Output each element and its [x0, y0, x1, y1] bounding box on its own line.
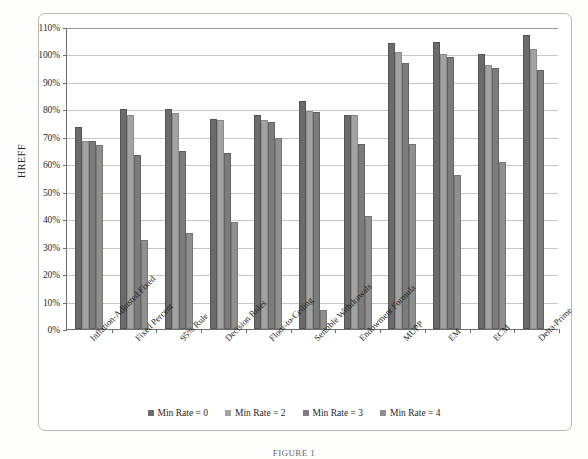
bar: [433, 42, 440, 329]
bar: [365, 216, 372, 329]
x-axis-tick-mark: [470, 329, 471, 333]
bar-group: [246, 28, 291, 329]
bar: [82, 141, 89, 329]
y-axis-tick-mark: [63, 330, 67, 331]
y-axis-tick-label: 60%: [0, 160, 66, 170]
bar: [492, 68, 499, 329]
bar: [172, 113, 179, 329]
bar: [395, 52, 402, 329]
bar: [478, 54, 485, 329]
bar: [409, 144, 416, 329]
bar-group: [380, 28, 425, 329]
bar: [210, 119, 217, 329]
legend-swatch: [303, 410, 309, 416]
bar: [523, 35, 530, 329]
legend-swatch: [148, 410, 154, 416]
legend-item: Min Rate = 3: [303, 408, 363, 418]
legend-item: Min Rate = 0: [148, 408, 208, 418]
bar: [89, 141, 96, 329]
bar-group: [201, 28, 246, 329]
bar-group: [470, 28, 515, 329]
y-axis-tick-label: 20%: [0, 270, 66, 280]
bar-group: [67, 28, 112, 329]
legend-label: Min Rate = 4: [390, 408, 440, 418]
y-axis-tick-label: 40%: [0, 215, 66, 225]
figure-container: HREFF 0%10%20%30%40%50%60%70%80%90%100%1…: [0, 0, 588, 459]
bar: [186, 233, 193, 329]
y-axis-tick-label: 100%: [0, 50, 66, 60]
bar: [224, 153, 231, 329]
bar-group: [514, 28, 559, 329]
figure-caption: FIGURE 1: [0, 448, 588, 459]
bar-group: [156, 28, 201, 329]
legend-label: Min Rate = 0: [158, 408, 208, 418]
x-axis-tick-mark: [425, 329, 426, 333]
y-axis-tick-label: 30%: [0, 243, 66, 253]
bar: [275, 138, 282, 329]
legend-swatch: [225, 410, 231, 416]
y-axis-tick-label: 110%: [0, 23, 66, 33]
bar: [165, 109, 172, 329]
x-axis-tick-mark: [514, 329, 515, 333]
bar-group: [425, 28, 470, 329]
y-axis-tick-label: 0%: [0, 325, 66, 335]
legend-item: Min Rate = 4: [380, 408, 440, 418]
bar: [537, 70, 544, 329]
x-axis-tick-mark: [246, 329, 247, 333]
chart-legend: Min Rate = 0Min Rate = 2Min Rate = 3Min …: [0, 408, 588, 418]
bar-group: [335, 28, 380, 329]
bar: [75, 127, 82, 329]
legend-label: Min Rate = 3: [313, 408, 363, 418]
legend-item: Min Rate = 2: [225, 408, 285, 418]
bar-group: [291, 28, 336, 329]
bar: [179, 151, 186, 329]
bar: [96, 145, 103, 329]
legend-swatch: [380, 410, 386, 416]
bar: [440, 54, 447, 329]
bar: [261, 120, 268, 329]
bar: [388, 43, 395, 329]
x-axis-tick-mark: [335, 329, 336, 333]
x-axis-tick-mark: [380, 329, 381, 333]
y-axis-tick-label: 90%: [0, 78, 66, 88]
legend-label: Min Rate = 2: [235, 408, 285, 418]
bar: [485, 65, 492, 329]
x-axis-tick-mark: [291, 329, 292, 333]
y-axis-tick-label: 10%: [0, 298, 66, 308]
x-axis-tick-mark: [559, 329, 560, 333]
bar: [231, 222, 238, 329]
bar: [313, 112, 320, 329]
bar: [299, 101, 306, 329]
bar: [499, 162, 506, 329]
y-axis-tick-label: 80%: [0, 105, 66, 115]
x-axis-tick-mark: [112, 329, 113, 333]
x-axis-tick-mark: [156, 329, 157, 333]
bar: [530, 49, 537, 329]
y-axis-tick-label: 70%: [0, 133, 66, 143]
x-axis-tick-mark: [201, 329, 202, 333]
y-axis-tick-label: 50%: [0, 188, 66, 198]
bar: [454, 175, 461, 329]
bar: [217, 120, 224, 329]
bar: [268, 122, 275, 329]
bar: [447, 57, 454, 329]
